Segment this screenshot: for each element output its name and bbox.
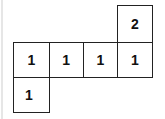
net-cell-row1-col2: 1 [83, 42, 119, 78]
net-cell-row1-col1: 1 [49, 42, 85, 78]
left-edge-line [1, 0, 3, 119]
net-cell-top: 2 [117, 5, 153, 43]
net-cell-bottom: 1 [13, 77, 50, 113]
net-cell-row1-col3: 1 [117, 42, 153, 78]
net-cell-row1-col0: 1 [13, 42, 50, 78]
